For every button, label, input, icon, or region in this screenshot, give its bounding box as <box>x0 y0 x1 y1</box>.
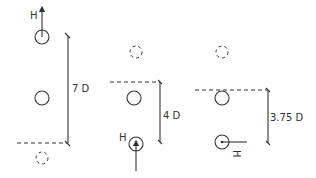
circle-ghost <box>130 46 142 58</box>
diagram-canvas: H 7 D H 4 D H 3.75 D <box>0 0 316 178</box>
marker-label: H <box>30 10 38 21</box>
distance-label: 3.75 D <box>270 112 303 123</box>
panel-2: H 4 D <box>110 46 181 171</box>
circle-middle <box>35 91 49 105</box>
circle-ghost <box>36 152 48 164</box>
distance-label: 4 D <box>163 110 181 121</box>
marker-label: H <box>119 132 127 143</box>
circle-middle <box>127 91 141 105</box>
circle-middle <box>215 91 229 105</box>
marker-label: H <box>231 150 242 158</box>
distance-label: 7 D <box>72 83 90 94</box>
panel-3: H 3.75 D <box>195 46 303 158</box>
circle-ghost <box>216 46 228 58</box>
panel-1: H 7 D <box>17 9 90 164</box>
